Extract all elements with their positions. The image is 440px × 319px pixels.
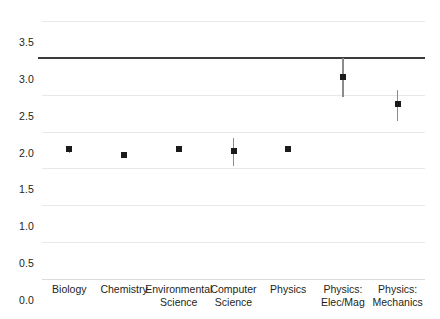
gridline xyxy=(42,205,425,206)
y-tick-label: 0.0 xyxy=(19,294,34,306)
data-point-marker xyxy=(121,152,127,158)
y-tick-label: 3.5 xyxy=(19,36,34,48)
gridline xyxy=(42,279,425,280)
data-point-marker xyxy=(340,74,346,80)
data-point-marker xyxy=(176,146,182,152)
y-tick-label: 3.0 xyxy=(19,73,34,85)
y-tick-label: 0.5 xyxy=(19,257,34,269)
gridline xyxy=(42,21,425,22)
data-point-marker xyxy=(395,101,401,107)
data-point-marker xyxy=(231,148,237,154)
gridline xyxy=(42,242,425,243)
y-tick-label: 1.5 xyxy=(19,183,34,195)
plot-area xyxy=(42,21,425,279)
data-point-marker xyxy=(285,146,291,152)
y-tick-label: 1.0 xyxy=(19,220,34,232)
gridline xyxy=(42,168,425,169)
x-tick-label: Physics: Mechanics xyxy=(355,283,440,308)
reference-line xyxy=(38,57,425,59)
gridline xyxy=(42,95,425,96)
y-tick-label: 2.0 xyxy=(19,147,34,159)
chart-container: 0.00.51.01.52.02.53.03.5 BiologyChemistr… xyxy=(0,0,440,319)
y-tick-label: 2.5 xyxy=(19,110,34,122)
x-axis: BiologyChemistryEnvironmental ScienceCom… xyxy=(42,283,425,317)
data-point-marker xyxy=(66,146,72,152)
y-axis: 0.00.51.01.52.02.53.03.5 xyxy=(0,21,34,279)
gridline xyxy=(42,132,425,133)
